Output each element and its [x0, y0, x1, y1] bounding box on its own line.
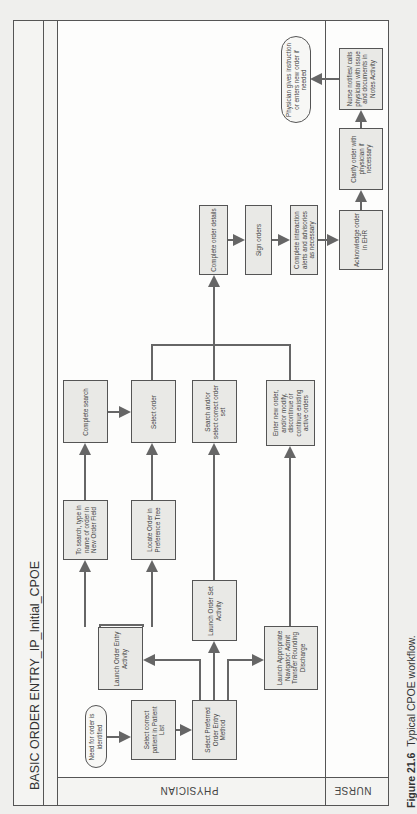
node-label: Launch Order Set Activity	[207, 583, 222, 639]
node-launch-order-set: Launch Order Set Activity	[192, 580, 237, 641]
node-label: Select order	[150, 384, 158, 440]
node-label: Physician gives instruction or enters ne…	[285, 41, 308, 119]
node-label: Search and/or select correct order set	[203, 384, 226, 440]
node-complete-order-details: Complete order details	[199, 205, 228, 275]
node-nurse-notifies: Nurse notifies/ calls physician with iss…	[339, 48, 383, 110]
start-node-need-for-order: Need for order is identified	[85, 705, 107, 768]
node-label: To search, type in name of order in New …	[74, 502, 97, 558]
node-label: Select correct patient in Patient List	[142, 703, 165, 757]
node-search-order-set: Search and/or select correct order set	[192, 380, 237, 443]
node-label: Locate Order in Preference Tree	[146, 502, 161, 558]
figure-caption: Figure 21.6 Typical CPOE workflow.	[405, 635, 417, 808]
node-label: Complete order details	[210, 208, 218, 272]
node-complete-search: Complete search	[63, 380, 108, 443]
node-select-order: Select order	[131, 380, 176, 443]
end-node-physician-gives: Physician gives instruction or enters ne…	[281, 36, 311, 123]
node-label: Launch Order Entry Activity	[113, 631, 128, 687]
node-launch-navigator: Launch Appropriate Navigator: Admit Tran…	[264, 626, 318, 690]
node-interaction-alerts: Complete interaction alerts and advisori…	[290, 205, 318, 275]
figure-caption-text: Typical CPOE workflow.	[405, 635, 417, 746]
node-label: Launch Appropriate Navigator: Admit Tran…	[276, 629, 306, 687]
node-label: Sign orders	[255, 208, 263, 272]
node-select-patient: Select correct patient in Patient List	[131, 700, 176, 760]
node-label: Enter new order, and/or modify, disconti…	[272, 383, 310, 443]
node-label: Complete search	[82, 384, 90, 440]
node-label: Need for order is identified	[88, 708, 103, 766]
node-label: Acknowledge order in EHR	[353, 213, 368, 267]
node-to-search: To search, type in name of order in New …	[63, 500, 108, 560]
node-sign-orders: Sign orders	[245, 205, 272, 275]
node-clarify-order: Clarify order with physician if necessar…	[339, 128, 383, 190]
node-label: Select Preferred Order Entry Method	[203, 703, 226, 757]
figure-number: Figure 21.6	[405, 753, 417, 808]
node-locate-order: Locate Order in Preference Tree	[131, 500, 176, 560]
node-enter-new-order: Enter new order, and/or modify, disconti…	[266, 380, 315, 446]
node-label: Clarify order with physician if necessar…	[350, 132, 373, 186]
node-label: Nurse notifies/ calls physician with iss…	[346, 51, 376, 107]
node-select-method: Select Preferred Order Entry Method	[192, 700, 237, 760]
node-acknowledge-order: Acknowledge order in EHR	[339, 210, 383, 270]
node-launch-order-entry: Launch Order Entry Activity	[98, 627, 143, 690]
node-label: Complete interaction alerts and advisori…	[293, 207, 316, 273]
